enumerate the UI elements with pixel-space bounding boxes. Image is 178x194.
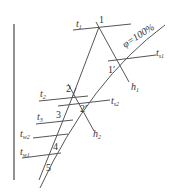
label-ts1: ts1 (156, 47, 164, 59)
label-point-5: 5 (46, 162, 51, 173)
label-point-1: 1 (99, 14, 104, 25)
label-ts2: ts2 (111, 95, 119, 107)
label-tw1: tw1 (20, 146, 30, 158)
process-line-2-5 (39, 88, 76, 180)
label-point-3: 3 (56, 109, 61, 120)
diagram-svg: t1 1 φ=100% 1′ ts1 h1 2 t2 2′ ts2 h2 t3 … (0, 0, 178, 194)
label-point-2: 2 (66, 83, 71, 94)
label-phi: φ=100% (120, 21, 156, 50)
label-point-2prime: 2′ (80, 103, 87, 114)
label-point-4: 4 (53, 141, 58, 152)
label-t3: t3 (37, 111, 43, 123)
label-t1: t1 (76, 18, 82, 30)
saturation-curve (40, 25, 165, 188)
label-h2: h2 (93, 128, 101, 140)
label-point-1prime: 1′ (108, 64, 115, 75)
isotherm-t2 (39, 96, 88, 101)
isotherm-tw2 (33, 134, 68, 138)
psychrometric-process-diagram: t1 1 φ=100% 1′ ts1 h1 2 t2 2′ ts2 h2 t3 … (0, 0, 178, 194)
label-t2: t2 (40, 88, 46, 100)
process-line-1-2 (72, 27, 99, 98)
label-h1: h1 (131, 81, 139, 93)
label-tw2: tw2 (20, 128, 30, 140)
